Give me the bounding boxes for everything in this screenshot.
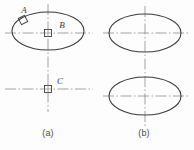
panel-a: A B C <box>5 4 93 112</box>
label-a: A <box>20 5 27 15</box>
label-b: B <box>59 20 65 30</box>
label-c: C <box>57 76 64 86</box>
square-marker-b <box>45 30 52 37</box>
square-marker-a <box>18 15 27 24</box>
technical-drawing-figure: A B C (a) (b) <box>0 0 194 150</box>
panel-b <box>103 6 189 126</box>
caption-panel-a: (a) <box>28 128 68 138</box>
caption-panel-b: (b) <box>124 128 164 138</box>
square-marker-c <box>45 86 52 93</box>
